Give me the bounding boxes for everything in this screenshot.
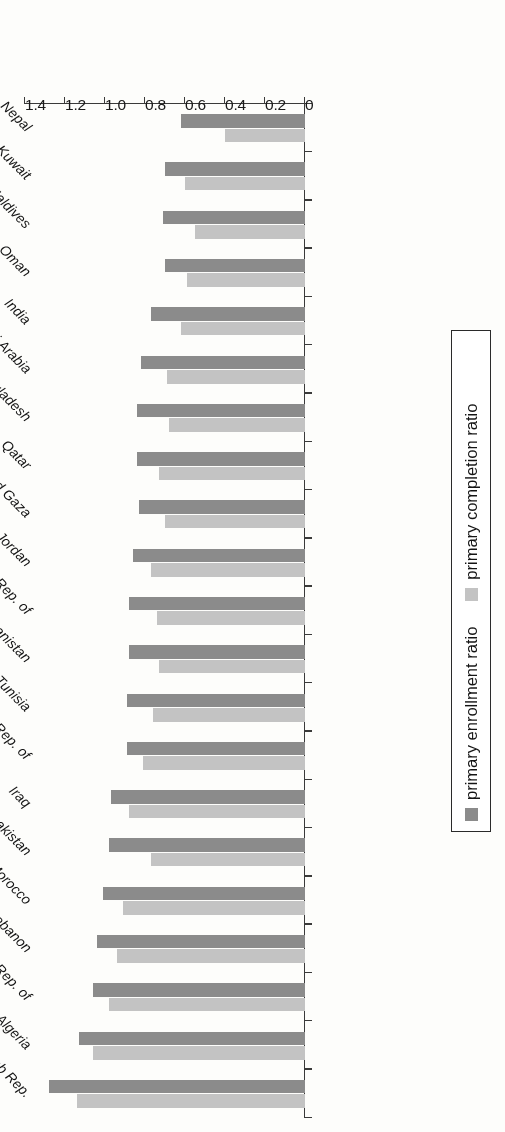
bar-primary-completion-ratio xyxy=(167,370,305,384)
category-axis-tick xyxy=(305,972,312,973)
bar-primary-enrollment-ratio xyxy=(141,356,305,370)
category-label: Pakistan xyxy=(0,810,35,859)
legend-swatch xyxy=(465,588,478,601)
bar-primary-enrollment-ratio xyxy=(127,694,305,708)
category-axis-tick xyxy=(305,199,312,200)
bar-primary-enrollment-ratio xyxy=(151,307,305,321)
category-axis-tick xyxy=(305,682,312,683)
category-axis-tick xyxy=(305,827,312,828)
legend-label: primary enrollment ratio xyxy=(462,627,481,800)
category-label: Algeria xyxy=(0,1010,35,1052)
category-axis-tick xyxy=(305,634,312,635)
bar-primary-enrollment-ratio xyxy=(79,1032,305,1046)
value-axis-tick-label: 1.0 xyxy=(105,96,126,114)
category-axis-tick xyxy=(305,441,312,442)
category-axis-tick xyxy=(305,489,312,490)
plot-area: NepalKuwaitMaldivesOmanIndiaSaudi Arabia… xyxy=(25,104,305,1118)
bar-primary-enrollment-ratio xyxy=(129,597,305,611)
category-axis-tick xyxy=(305,779,312,780)
bar-primary-enrollment-ratio xyxy=(111,790,305,804)
bar-primary-completion-ratio xyxy=(157,612,305,626)
bar-primary-enrollment-ratio xyxy=(165,259,305,273)
scanned-bar-chart-figure: NepalKuwaitMaldivesOmanIndiaSaudi Arabia… xyxy=(0,0,505,1132)
category-label: Morocco xyxy=(0,858,35,907)
bar-primary-completion-ratio xyxy=(195,225,305,239)
value-axis-tick-label: 0.8 xyxy=(145,96,166,114)
category-label: Iraq xyxy=(6,782,34,810)
legend-label: primary completion ratio xyxy=(462,404,481,580)
bar-primary-enrollment-ratio xyxy=(109,838,305,852)
legend-entry: primary completion ratio xyxy=(462,404,481,601)
bar-primary-completion-ratio xyxy=(181,322,305,336)
bar-primary-enrollment-ratio xyxy=(181,114,305,128)
category-axis-tick xyxy=(305,1068,312,1069)
bar-primary-completion-ratio xyxy=(117,950,305,964)
bar-primary-enrollment-ratio xyxy=(129,645,305,659)
value-axis-tick-label: 1.2 xyxy=(65,96,86,114)
category-label: Lebanon xyxy=(0,906,35,956)
value-axis-tick-label: 1.4 xyxy=(25,96,46,114)
bar-primary-completion-ratio xyxy=(169,418,305,432)
category-axis-tick xyxy=(305,875,312,876)
bar-primary-completion-ratio xyxy=(129,805,305,819)
category-label: Tunisia xyxy=(0,672,35,714)
legend-entry: primary enrollment ratio xyxy=(462,627,481,821)
value-axis-tick-label: 0.2 xyxy=(265,96,286,114)
bar-primary-completion-ratio xyxy=(165,515,305,529)
bar-primary-completion-ratio xyxy=(187,274,305,288)
bar-primary-completion-ratio xyxy=(225,129,305,143)
bar-primary-enrollment-ratio xyxy=(137,404,305,418)
bar-primary-enrollment-ratio xyxy=(49,1080,305,1094)
bar-primary-enrollment-ratio xyxy=(163,211,305,225)
bar-primary-completion-ratio xyxy=(151,563,305,577)
value-axis-tick-label: 0 xyxy=(305,96,313,114)
category-label: Oman xyxy=(0,241,35,279)
bar-primary-completion-ratio xyxy=(123,901,305,915)
category-axis-tick xyxy=(305,585,312,586)
value-axis-tick-label: 0.4 xyxy=(225,96,246,114)
category-label: Kuwait xyxy=(0,142,35,183)
category-label: Qatar xyxy=(0,437,35,473)
legend-entries: primary enrollment ratioprimary completi… xyxy=(452,331,490,831)
category-label: Jordan xyxy=(0,528,35,570)
category-axis-tick xyxy=(305,923,312,924)
category-axis-tick xyxy=(305,151,312,152)
chart-legend: primary enrollment ratioprimary completi… xyxy=(451,330,491,832)
category-axis-tick xyxy=(305,247,312,248)
bar-primary-completion-ratio xyxy=(185,177,305,191)
bar-primary-enrollment-ratio xyxy=(103,887,305,901)
bar-primary-completion-ratio xyxy=(151,853,305,867)
bar-primary-enrollment-ratio xyxy=(93,983,305,997)
legend-swatch xyxy=(465,808,478,821)
category-axis-tick xyxy=(305,1020,312,1021)
category-label: India xyxy=(2,295,35,328)
bar-primary-enrollment-ratio xyxy=(165,162,305,176)
bar-primary-enrollment-ratio xyxy=(97,935,305,949)
bar-primary-enrollment-ratio xyxy=(139,500,305,514)
category-label: Maldives xyxy=(0,181,35,231)
category-axis-tick xyxy=(305,730,312,731)
bar-primary-enrollment-ratio xyxy=(133,549,305,563)
bar-primary-completion-ratio xyxy=(159,660,305,674)
category-axis-tick xyxy=(305,296,312,297)
bar-primary-completion-ratio xyxy=(93,1046,305,1060)
bar-primary-enrollment-ratio xyxy=(127,742,305,756)
bar-primary-completion-ratio xyxy=(159,467,305,481)
value-axis-tick-label: 0.6 xyxy=(185,96,206,114)
bar-primary-completion-ratio xyxy=(109,998,305,1012)
bar-primary-completion-ratio xyxy=(143,756,305,770)
category-axis-tick xyxy=(305,344,312,345)
category-axis-tick xyxy=(305,1117,312,1118)
bar-primary-completion-ratio xyxy=(153,708,305,722)
category-axis-tick xyxy=(305,537,312,538)
bar-primary-enrollment-ratio xyxy=(137,452,305,466)
category-label: West Bank and Gaza xyxy=(0,416,35,521)
category-axis-tick xyxy=(305,392,312,393)
bar-primary-completion-ratio xyxy=(77,1094,305,1108)
